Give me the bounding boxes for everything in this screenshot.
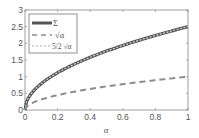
legend-label-sqrt-alpha: √α <box>55 30 65 40</box>
y-tick-label: 1 <box>18 72 23 82</box>
legend: Σ√α5/2 √α <box>29 14 77 53</box>
legend-label-sigma: Σ <box>53 18 58 28</box>
x-tick-label: 0.8 <box>149 112 161 122</box>
x-tick-label: 1 <box>186 112 191 122</box>
y-tick-label: 3 <box>18 5 23 15</box>
x-axis-label: α <box>104 125 109 135</box>
chart: 00.511.522.5300.20.40.60.81 Σ√α5/2 √α α <box>0 0 199 138</box>
y-tick-label: 1.5 <box>11 55 23 65</box>
y-tick-label: 2.5 <box>11 22 23 32</box>
x-tick-label: 0.6 <box>117 112 129 122</box>
y-tick-label: 0.5 <box>11 88 23 98</box>
x-tick-label: 0 <box>23 112 28 122</box>
x-tick-label: 0.2 <box>52 112 64 122</box>
x-tick-label: 0.4 <box>84 112 96 122</box>
legend-label-five-halves-sqrt-alpha: 5/2 √α <box>52 42 72 51</box>
y-tick-label: 2 <box>18 38 23 48</box>
